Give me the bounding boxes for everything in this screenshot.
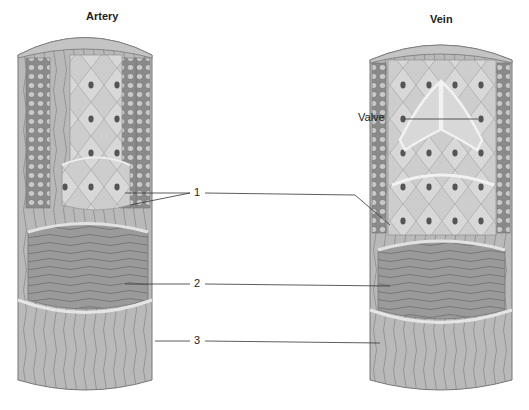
layer2-leader-vein: [205, 284, 390, 286]
vein-illustration: [370, 45, 512, 390]
layer1-label: 1: [194, 186, 200, 198]
artery-title: Artery: [86, 10, 118, 22]
layer1-leader-vein: [205, 193, 355, 195]
artery-illustration: [18, 38, 152, 391]
valve-label: Valve: [358, 111, 385, 123]
layer3-label: 3: [194, 334, 200, 346]
diagram-canvas: [0, 0, 529, 410]
vein-title: Vein: [430, 13, 453, 25]
layer2-label: 2: [194, 277, 200, 289]
layer3-leader-vein: [205, 341, 380, 343]
